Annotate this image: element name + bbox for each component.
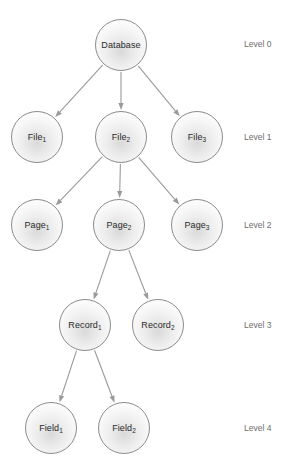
level-label-level-2: Level 2 (244, 221, 271, 230)
edge-database-file1 (60, 65, 103, 112)
node-record1[interactable]: Record1 (59, 299, 111, 351)
level-label-level-1: Level 1 (244, 133, 271, 142)
level-label-level-3: Level 3 (244, 321, 271, 330)
node-label-page1: Page1 (24, 221, 49, 230)
node-label-file1: File1 (28, 133, 47, 142)
node-subscript-file3: 3 (203, 136, 207, 143)
edge-page2-record2 (129, 250, 146, 293)
node-subscript-record1: 1 (98, 324, 102, 331)
node-subscript-record2: 2 (171, 324, 175, 331)
node-label-page3: Page3 (184, 221, 209, 230)
node-subscript-field1: 1 (59, 427, 63, 434)
node-page2[interactable]: Page2 (93, 199, 145, 251)
node-label-file3: File3 (188, 133, 207, 142)
node-subscript-page2: 2 (128, 224, 132, 231)
level-label-level-4: Level 4 (244, 424, 271, 433)
hierarchy-diagram: DatabaseFile1File2File3Page1Page2Page3Re… (0, 0, 288, 475)
edge-file2-page1 (60, 157, 102, 201)
edge-record1-field1 (62, 351, 77, 396)
node-label-file2: File2 (112, 133, 131, 142)
arrowhead-database-file2 (118, 103, 123, 110)
node-file3[interactable]: File3 (171, 111, 223, 163)
node-file2[interactable]: File2 (95, 111, 147, 163)
edge-file2-page2 (120, 164, 121, 191)
node-database[interactable]: Database (95, 19, 147, 71)
node-field2[interactable]: Field2 (98, 402, 150, 454)
arrowhead-record1-field2 (110, 395, 115, 402)
node-label-record2: Record2 (141, 321, 174, 330)
node-label-field2: Field2 (112, 424, 136, 433)
arrowhead-page2-record2 (143, 292, 148, 299)
node-subscript-file2: 2 (127, 136, 131, 143)
node-page1[interactable]: Page1 (11, 199, 63, 251)
level-label-level-0: Level 0 (244, 40, 271, 49)
node-subscript-page1: 1 (46, 224, 50, 231)
node-subscript-page3: 3 (206, 224, 210, 231)
node-file1[interactable]: File1 (11, 111, 63, 163)
edge-database-file3 (138, 66, 175, 111)
edge-record1-field2 (95, 350, 112, 396)
node-label-page2: Page2 (106, 221, 131, 230)
edge-page2-record1 (96, 251, 110, 293)
node-label-field1: Field1 (39, 424, 63, 433)
node-record2[interactable]: Record2 (132, 299, 184, 351)
node-label-database: Database (101, 41, 140, 50)
node-subscript-field2: 2 (132, 427, 136, 434)
node-subscript-file1: 1 (43, 136, 47, 143)
node-label-record1: Record1 (68, 321, 101, 330)
node-field1[interactable]: Field1 (25, 402, 77, 454)
arrowhead-file2-page2 (117, 191, 122, 198)
node-page3[interactable]: Page3 (171, 199, 223, 251)
arrowhead-page2-record1 (93, 292, 98, 299)
arrowhead-record1-field1 (59, 395, 64, 402)
edge-file2-page3 (139, 157, 175, 199)
